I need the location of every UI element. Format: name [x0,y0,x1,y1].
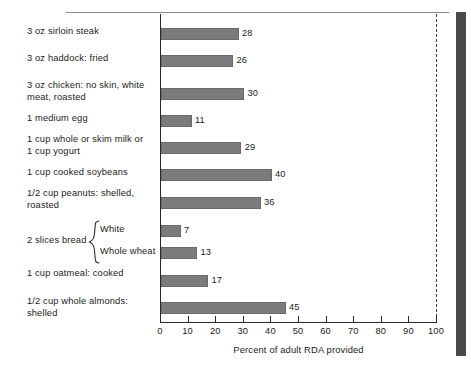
category-label: 1 medium egg [27,113,160,125]
category-label: 3 oz sirloin steak [27,26,160,38]
bar [161,115,191,127]
bar [161,275,208,287]
x-axis-tick [326,316,327,323]
x-tick-label: 30 [238,326,249,336]
x-axis-tick [270,316,271,323]
bar-value-label: 30 [248,88,259,98]
bar [161,302,285,314]
x-tick-label: 50 [293,326,304,336]
x-axis-tick [243,316,244,323]
bracket-group-label: 2 slices bread [27,235,86,245]
bar-value-label: 26 [237,55,248,65]
bar [161,88,244,100]
bar [161,169,271,181]
x-tick-label: 0 [157,326,162,336]
bar-value-label: 36 [264,197,275,207]
bar [161,55,233,67]
x-axis-tick [298,316,299,323]
x-axis-tick [408,316,409,323]
bar [161,247,197,259]
x-tick-label: 10 [182,326,193,336]
bar [161,142,241,154]
category-label: 3 oz chicken: no skin, white meat, roast… [27,80,160,103]
bar-value-label: 40 [275,169,286,179]
category-label: 1/2 cup peanuts: shelled, roasted [27,188,160,211]
x-axis-title: Percent of adult RDA provided [160,344,437,355]
figure-page: 3 oz sirloin steak 3 oz haddock: fried 3… [0,0,471,371]
bread-bracket-group: 2 slices bread White Whole wheat [20,220,160,264]
x-tick-label: 100 [428,326,444,336]
x-axis-tick [160,316,161,323]
bracket-sub-label-white: White [100,224,125,234]
category-label: 1 cup whole or skim milk or 1 cup yogurt [27,134,160,157]
x-axis-tick [436,316,437,323]
bar-value-label: 13 [201,247,212,257]
category-label: 1/2 cup whole almonds: shelled [27,296,160,319]
x-tick-label: 60 [320,326,331,336]
x-axis-tick [353,316,354,323]
bar-value-label: 29 [245,142,256,152]
x-tick-label: 90 [403,326,414,336]
bar [161,225,180,237]
bar-value-label: 7 [184,225,189,235]
x-axis-tick [215,316,216,323]
reference-line-100-percent [436,14,437,322]
x-tick-label: 70 [348,326,359,336]
category-label-column: 3 oz sirloin steak 3 oz haddock: fried 3… [0,0,160,371]
x-tick-label: 20 [210,326,221,336]
category-label: 1 cup cooked soybeans [27,167,160,179]
x-tick-label: 80 [376,326,387,336]
bar-value-label: 45 [289,302,300,312]
bar-value-label: 28 [242,28,253,38]
page-spine-strip [456,12,466,356]
category-label: 3 oz haddock: fried [27,53,160,65]
category-label: 1 cup oatmeal: cooked [27,268,160,280]
x-tick-label: 40 [265,326,276,336]
bar [161,197,260,209]
x-axis-tick [381,316,382,323]
bar-value-label: 11 [195,115,205,125]
bracket-sub-label-whole-wheat: Whole wheat [100,246,155,256]
plot-area: 0 10 20 30 40 50 60 70 80 90 100 Percent… [160,14,450,354]
bar [161,28,238,40]
bar-value-label: 17 [212,275,223,285]
x-axis-tick [188,316,189,323]
